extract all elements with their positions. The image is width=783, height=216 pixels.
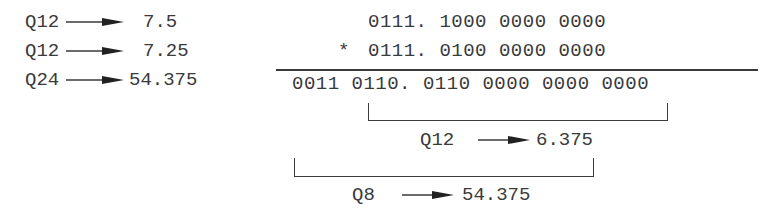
arrow-right-icon	[66, 75, 124, 85]
format-label: Q12	[420, 129, 454, 151]
value-label: 6.375	[536, 129, 593, 151]
value-label: 7.5	[143, 11, 177, 33]
bracket-q8	[294, 158, 594, 177]
format-label: Q12	[25, 40, 59, 62]
operand-b: 0111. 0100 0000 0000	[368, 40, 606, 62]
operand-a: 0111. 1000 0000 0000	[368, 11, 606, 33]
format-label: Q8	[352, 184, 375, 206]
bracket-q12	[368, 103, 668, 121]
value-label: 54.375	[462, 184, 530, 206]
arrow-right-icon	[66, 17, 124, 27]
value-label: 7.25	[143, 40, 189, 62]
format-label: Q12	[25, 11, 59, 33]
format-label: Q24	[25, 69, 59, 91]
arrow-right-icon	[478, 135, 530, 145]
value-label: 54.375	[129, 69, 197, 91]
product: 0011 0110. 0110 0000 0000 0000	[292, 73, 649, 95]
arrow-right-icon	[66, 46, 124, 56]
operator: *	[338, 40, 349, 62]
sum-line	[276, 69, 758, 71]
arrow-right-icon	[402, 190, 454, 200]
